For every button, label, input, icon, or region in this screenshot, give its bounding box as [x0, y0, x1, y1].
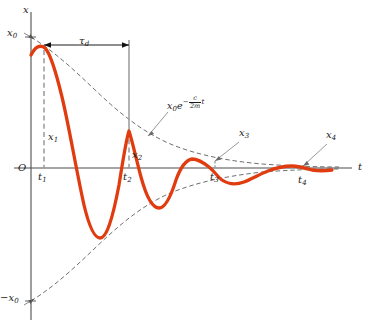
peak-label-x2-subscript: 2	[138, 154, 142, 162]
y-tick-label-negative-x0-base: −x	[0, 292, 14, 303]
y-tick-label-negative-x0-subscript: 0	[14, 297, 18, 305]
x4-leader-arrow	[303, 161, 309, 166]
time-label-t4-subscript: 4	[302, 179, 306, 187]
peak-label-x3: x3	[239, 128, 249, 140]
time-label-t3-subscript: 3	[214, 176, 218, 184]
time-label-t1-subscript: 1	[42, 176, 46, 184]
envelope-equation-denominator: 2m	[189, 103, 201, 110]
peak-label-x1: x1	[48, 132, 58, 144]
peak-label-x1-base: x	[48, 131, 54, 142]
time-label-t1: t1	[38, 172, 47, 184]
y-tick-label-negative-x0: −x0	[0, 293, 19, 305]
time-label-t3: t3	[210, 172, 219, 184]
y-tick-label-x0-subscript: 0	[13, 32, 17, 40]
damped-oscillation-figure: x t O x0 −x0 τd x1 x2 x3 x4 t1 t2 t3 t4 …	[0, 0, 375, 333]
peak-label-x2-base: x	[132, 149, 138, 160]
damped-oscillation-curve	[31, 46, 332, 238]
peak-label-x1-subscript: 1	[54, 136, 58, 144]
peak-label-x4-subscript: 4	[332, 134, 336, 142]
envelope-equation-exponent-variable: t	[202, 98, 205, 106]
time-label-t2-subscript: 2	[127, 176, 131, 184]
y-tick-label-x0: x0	[7, 28, 17, 40]
envelope-equation-fraction: c2m	[189, 95, 201, 110]
peak-label-x2: x2	[132, 150, 142, 162]
peak-label-x4: x4	[326, 130, 336, 142]
envelope-equation-exponent: −c2mt	[183, 95, 205, 110]
envelope-equation-base: x	[167, 100, 172, 111]
peak-label-x3-base: x	[239, 127, 245, 138]
peak-label-x3-subscript: 3	[245, 132, 249, 140]
peak-label-x4-base: x	[326, 129, 332, 140]
envelope-equation-annotation: x0e−c2mt	[167, 95, 204, 113]
y-axis-label: x	[23, 5, 29, 15]
time-label-t4: t4	[298, 175, 307, 187]
origin-label: O	[18, 163, 26, 173]
figure-canvas	[0, 0, 375, 333]
damped-period-label: τd	[79, 36, 89, 48]
period-arrow-right	[122, 42, 129, 48]
lower-envelope-curve	[31, 169, 340, 301]
time-label-t2: t2	[123, 172, 132, 184]
damped-period-subscript: d	[85, 40, 89, 48]
y-tick-label-x0-base: x	[7, 27, 13, 38]
damped-period-symbol: τ	[79, 35, 85, 46]
x-axis-label: t	[358, 162, 362, 172]
envelope-equation-exponent-sign: −	[183, 98, 189, 106]
